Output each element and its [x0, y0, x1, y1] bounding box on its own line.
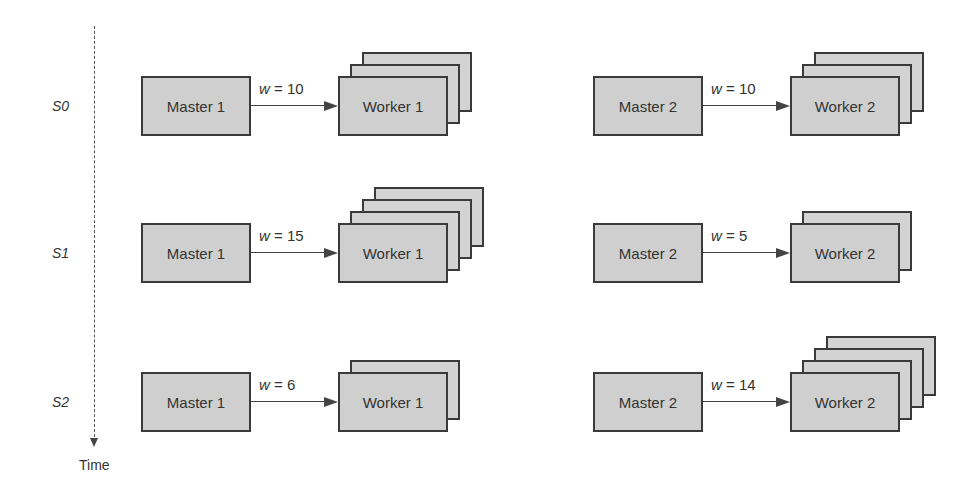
- worker-box: Worker 2: [790, 76, 900, 136]
- arrowhead-icon: [324, 397, 338, 407]
- master-box: Master 1: [141, 372, 251, 432]
- edge-line: [703, 105, 780, 106]
- stage-label: S1: [52, 245, 69, 261]
- arrowhead-icon: [324, 248, 338, 258]
- worker-box: Worker 2: [790, 372, 900, 432]
- worker-box: Worker 2: [790, 223, 900, 283]
- weight-label: w = 6: [259, 376, 295, 393]
- weight-label: w = 15: [259, 227, 304, 244]
- master-box: Master 2: [593, 372, 703, 432]
- edge-line: [703, 401, 780, 402]
- master-box: Master 1: [141, 76, 251, 136]
- arrowhead-icon: [776, 101, 790, 111]
- weight-label: w = 10: [711, 80, 756, 97]
- master-box: Master 2: [593, 76, 703, 136]
- worker-box: Worker 1: [338, 76, 448, 136]
- time-axis-label: Time: [79, 457, 110, 473]
- arrowhead-icon: [776, 248, 790, 258]
- worker-box: Worker 1: [338, 372, 448, 432]
- arrowhead-icon: [324, 101, 338, 111]
- master-box: Master 1: [141, 223, 251, 283]
- edge-line: [251, 252, 328, 253]
- worker-box: Worker 1: [338, 223, 448, 283]
- weight-label: w = 10: [259, 80, 304, 97]
- stage-label: S2: [52, 394, 69, 410]
- arrowhead-icon: [776, 397, 790, 407]
- time-axis-line: [94, 26, 95, 442]
- weight-label: w = 5: [711, 227, 747, 244]
- weight-label: w = 14: [711, 376, 756, 393]
- time-arrow-icon: [90, 438, 98, 447]
- edge-line: [251, 401, 328, 402]
- edge-line: [703, 252, 780, 253]
- stage-label: S0: [52, 98, 69, 114]
- edge-line: [251, 105, 328, 106]
- master-box: Master 2: [593, 223, 703, 283]
